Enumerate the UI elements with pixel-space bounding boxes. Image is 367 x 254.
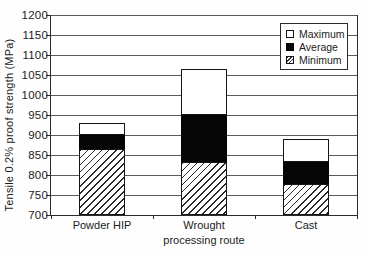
y-tick-label: 1100 xyxy=(10,48,48,62)
legend-item-minimum: Minimum xyxy=(286,54,344,66)
legend-label-average: Average xyxy=(299,41,338,53)
chart: Tensile 0.2% proof strength (MPa) 700750… xyxy=(0,0,367,254)
y-tick-label: 1050 xyxy=(10,68,48,82)
bar-segment-minimum-powder-hip xyxy=(79,149,125,215)
bar-segment-minimum-wrought xyxy=(181,162,227,215)
x-category-label: Powder HIP xyxy=(47,219,157,232)
legend-item-maximum: Maximum xyxy=(286,28,344,40)
bar-segment-maximum-powder-hip xyxy=(79,123,125,135)
y-axis-title: Tensile 0.2% proof strength (MPa) xyxy=(3,39,15,212)
x-axis-title: processing route xyxy=(144,234,264,246)
y-tick-label: 750 xyxy=(10,188,48,202)
gridline xyxy=(51,15,357,16)
bar-segment-average-powder-hip xyxy=(79,135,125,149)
average-swatch-icon xyxy=(286,43,294,51)
bar-segment-maximum-cast xyxy=(283,139,329,162)
maximum-swatch-icon xyxy=(286,30,294,38)
x-category-label: Wrought xyxy=(149,219,259,232)
y-tick-label: 1150 xyxy=(10,28,48,42)
bar-segment-average-wrought xyxy=(181,115,227,162)
minimum-swatch-icon xyxy=(286,56,294,64)
bar-segment-maximum-wrought xyxy=(181,69,227,115)
x-category-label: Cast xyxy=(251,219,361,232)
y-tick-label: 1000 xyxy=(10,88,48,102)
right-border-line xyxy=(357,15,358,216)
y-tick-label: 1200 xyxy=(10,8,48,22)
legend-label-minimum: Minimum xyxy=(299,54,342,66)
x-axis-line xyxy=(47,215,358,216)
legend: Maximum Average Minimum xyxy=(280,23,348,70)
y-tick-label: 800 xyxy=(10,168,48,182)
y-tick-label: 700 xyxy=(10,208,48,222)
bar-segment-average-cast xyxy=(283,162,329,184)
y-tick-label: 950 xyxy=(10,108,48,122)
y-tick-label: 850 xyxy=(10,148,48,162)
bar-segment-minimum-cast xyxy=(283,184,329,215)
legend-label-maximum: Maximum xyxy=(299,28,345,40)
y-tick-label: 900 xyxy=(10,128,48,142)
legend-item-average: Average xyxy=(286,41,344,53)
